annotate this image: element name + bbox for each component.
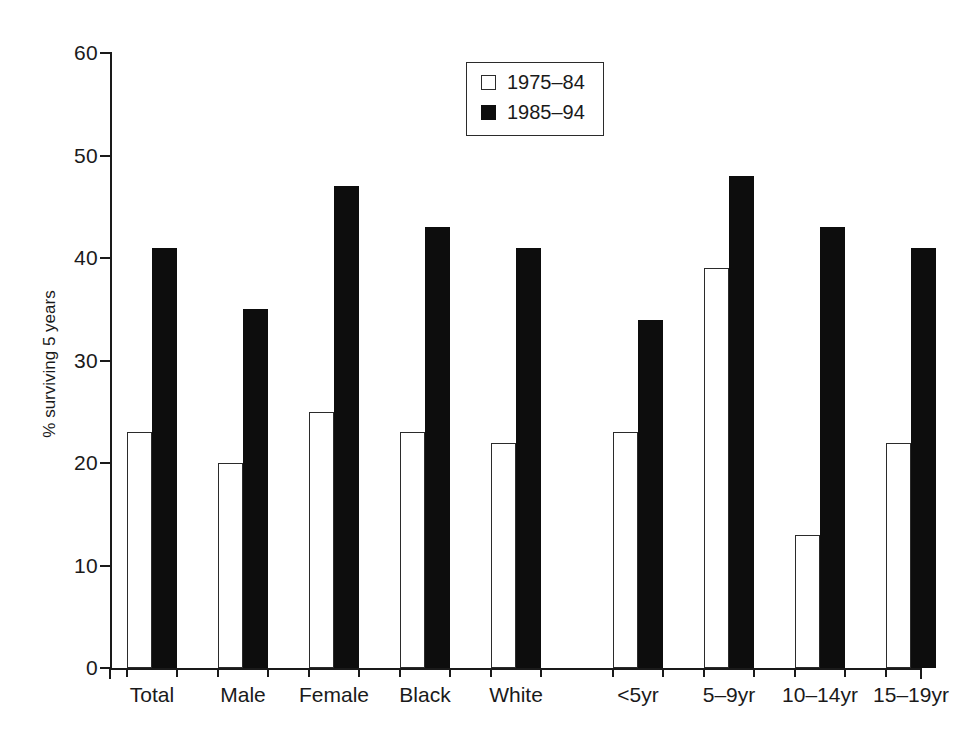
- y-tick-30: [100, 360, 112, 362]
- x-tick-6: [358, 668, 360, 677]
- x-tick-1: [126, 668, 128, 677]
- legend-item-1: 1985–94: [481, 102, 585, 122]
- x-tick-13: [703, 668, 705, 677]
- x-axis-line: [110, 668, 922, 670]
- y-tick-10: [100, 565, 112, 567]
- x-tick-16: [844, 668, 846, 677]
- bar-5yr-198594: [638, 320, 663, 669]
- x-tick-3: [217, 668, 219, 677]
- x-tick-9: [490, 668, 492, 677]
- x-tick-12: [662, 668, 664, 677]
- bar-male-197584: [218, 463, 243, 668]
- x-tick-11: [612, 668, 614, 677]
- y-tick-50: [100, 155, 112, 157]
- x-tick-5: [308, 668, 310, 677]
- legend-item-0: 1975–84: [481, 72, 585, 92]
- bar-female-198594: [334, 186, 359, 668]
- bar-total-197584: [127, 432, 152, 668]
- bar-1519yr-197584: [886, 443, 911, 669]
- legend-swatch-filled-icon: [481, 105, 496, 120]
- bar-female-197584: [309, 412, 334, 668]
- bar-total-198594: [152, 248, 177, 668]
- x-tick-10: [540, 668, 542, 677]
- y-tick-label-20: 20: [52, 452, 98, 473]
- y-tick-60: [100, 52, 112, 54]
- y-tick-label-30: 30: [52, 350, 98, 371]
- y-tick-label-50: 50: [52, 145, 98, 166]
- y-tick-20: [100, 462, 112, 464]
- bar-black-197584: [400, 432, 425, 668]
- x-tick-8: [449, 668, 451, 677]
- bar-1519yr-198594: [911, 248, 936, 668]
- bar-white-198594: [516, 248, 541, 668]
- y-tick-label-0: 0: [52, 657, 98, 678]
- x-tick-4: [267, 668, 269, 677]
- y-axis-line: [110, 53, 112, 670]
- legend-swatch-open-icon: [481, 75, 496, 90]
- x-tick-0: [109, 668, 111, 679]
- bar-black-198594: [425, 227, 450, 668]
- bar-59yr-197584: [704, 268, 729, 668]
- legend-label-0: 1975–84: [507, 72, 585, 92]
- legend: 1975–84 1985–94: [466, 62, 604, 136]
- bar-male-198594: [243, 309, 268, 668]
- bar-white-197584: [491, 443, 516, 669]
- x-tick-17: [885, 668, 887, 677]
- x-tick-18: [920, 668, 922, 679]
- bar-59yr-198594: [729, 176, 754, 668]
- bar-1014yr-198594: [820, 227, 845, 668]
- x-tick-7: [399, 668, 401, 677]
- x-tick-15: [794, 668, 796, 677]
- x-label-1519yr: 15–19yr: [851, 683, 954, 707]
- legend-label-1: 1985–94: [507, 102, 585, 122]
- x-label-white: White: [456, 683, 576, 707]
- y-tick-label-40: 40: [52, 247, 98, 268]
- bar-5yr-197584: [613, 432, 638, 668]
- y-tick-label-60: 60: [52, 42, 98, 63]
- x-tick-2: [176, 668, 178, 677]
- x-tick-14: [753, 668, 755, 677]
- y-tick-label-10: 10: [52, 555, 98, 576]
- y-tick-40: [100, 257, 112, 259]
- bar-1014yr-197584: [795, 535, 820, 668]
